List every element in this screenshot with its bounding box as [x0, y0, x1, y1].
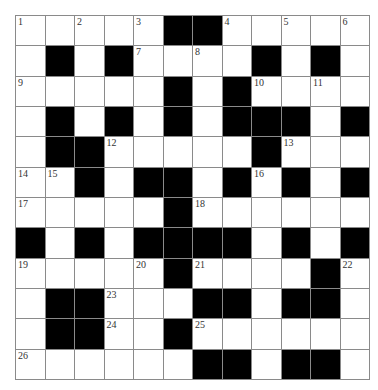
- letter-cell[interactable]: [45, 197, 75, 227]
- letter-cell[interactable]: [281, 258, 311, 288]
- letter-cell[interactable]: [15, 288, 45, 318]
- letter-cell[interactable]: [340, 288, 370, 318]
- letter-cell[interactable]: [133, 136, 163, 166]
- letter-cell[interactable]: [163, 45, 193, 75]
- letter-cell[interactable]: [74, 349, 104, 379]
- letter-cell[interactable]: 21: [192, 258, 222, 288]
- letter-cell[interactable]: [251, 197, 281, 227]
- letter-cell[interactable]: [281, 318, 311, 348]
- letter-cell[interactable]: 6: [340, 15, 370, 45]
- letter-cell[interactable]: 7: [133, 45, 163, 75]
- letter-cell[interactable]: 5: [281, 15, 311, 45]
- letter-cell[interactable]: [310, 106, 340, 136]
- letter-cell[interactable]: [133, 288, 163, 318]
- letter-cell[interactable]: [251, 288, 281, 318]
- letter-cell[interactable]: [163, 136, 193, 166]
- letter-cell[interactable]: [45, 227, 75, 257]
- letter-cell[interactable]: [222, 136, 252, 166]
- letter-cell[interactable]: [104, 227, 134, 257]
- letter-cell[interactable]: [192, 136, 222, 166]
- letter-cell[interactable]: [251, 349, 281, 379]
- letter-cell[interactable]: [310, 167, 340, 197]
- letter-cell[interactable]: 3: [133, 15, 163, 45]
- letter-cell[interactable]: [310, 318, 340, 348]
- clue-number: 23: [107, 290, 117, 300]
- letter-cell[interactable]: [340, 197, 370, 227]
- letter-cell[interactable]: 16: [251, 167, 281, 197]
- letter-cell[interactable]: [310, 15, 340, 45]
- letter-cell[interactable]: 17: [15, 197, 45, 227]
- letter-cell[interactable]: [15, 45, 45, 75]
- letter-cell[interactable]: [163, 349, 193, 379]
- letter-cell[interactable]: [340, 349, 370, 379]
- letter-cell[interactable]: [192, 106, 222, 136]
- letter-cell[interactable]: [74, 76, 104, 106]
- letter-cell[interactable]: [340, 76, 370, 106]
- letter-cell[interactable]: [192, 76, 222, 106]
- letter-cell[interactable]: 1: [15, 15, 45, 45]
- letter-cell[interactable]: [340, 45, 370, 75]
- letter-cell[interactable]: [45, 258, 75, 288]
- letter-cell[interactable]: [15, 136, 45, 166]
- black-square: [281, 106, 311, 136]
- letter-cell[interactable]: [340, 136, 370, 166]
- letter-cell[interactable]: [281, 45, 311, 75]
- letter-cell[interactable]: [74, 197, 104, 227]
- letter-cell[interactable]: 14: [15, 167, 45, 197]
- letter-cell[interactable]: 13: [281, 136, 311, 166]
- letter-cell[interactable]: [45, 15, 75, 45]
- letter-cell[interactable]: 24: [104, 318, 134, 348]
- letter-cell[interactable]: [104, 258, 134, 288]
- letter-cell[interactable]: [133, 318, 163, 348]
- letter-cell[interactable]: [15, 318, 45, 348]
- letter-cell[interactable]: [15, 106, 45, 136]
- letter-cell[interactable]: 10: [251, 76, 281, 106]
- letter-cell[interactable]: [251, 318, 281, 348]
- letter-cell[interactable]: [251, 227, 281, 257]
- letter-cell[interactable]: [133, 197, 163, 227]
- letter-cell[interactable]: 23: [104, 288, 134, 318]
- letter-cell[interactable]: [104, 197, 134, 227]
- letter-cell[interactable]: [104, 167, 134, 197]
- letter-cell[interactable]: [74, 106, 104, 136]
- letter-cell[interactable]: 11: [310, 76, 340, 106]
- letter-cell[interactable]: [222, 318, 252, 348]
- letter-cell[interactable]: [74, 45, 104, 75]
- letter-cell[interactable]: 26: [15, 349, 45, 379]
- letter-cell[interactable]: 2: [74, 15, 104, 45]
- letter-cell[interactable]: 12: [104, 136, 134, 166]
- letter-cell[interactable]: [281, 197, 311, 227]
- letter-cell[interactable]: [104, 76, 134, 106]
- letter-cell[interactable]: [310, 197, 340, 227]
- letter-cell[interactable]: [251, 258, 281, 288]
- letter-cell[interactable]: 15: [45, 167, 75, 197]
- letter-cell[interactable]: [222, 258, 252, 288]
- clue-number: 13: [284, 138, 294, 148]
- letter-cell[interactable]: [104, 349, 134, 379]
- letter-cell[interactable]: [133, 106, 163, 136]
- letter-cell[interactable]: [133, 76, 163, 106]
- letter-cell[interactable]: [340, 318, 370, 348]
- letter-cell[interactable]: 18: [192, 197, 222, 227]
- letter-cell[interactable]: [192, 167, 222, 197]
- letter-cell[interactable]: 20: [133, 258, 163, 288]
- letter-cell[interactable]: 8: [192, 45, 222, 75]
- letter-cell[interactable]: [163, 288, 193, 318]
- black-square: [192, 349, 222, 379]
- letter-cell[interactable]: [310, 136, 340, 166]
- letter-cell[interactable]: [74, 258, 104, 288]
- letter-cell[interactable]: [251, 15, 281, 45]
- letter-cell[interactable]: [45, 76, 75, 106]
- letter-cell[interactable]: [104, 15, 134, 45]
- letter-cell[interactable]: 25: [192, 318, 222, 348]
- letter-cell[interactable]: [281, 76, 311, 106]
- letter-cell[interactable]: [310, 227, 340, 257]
- letter-cell[interactable]: [222, 45, 252, 75]
- letter-cell[interactable]: 22: [340, 258, 370, 288]
- letter-cell[interactable]: [45, 349, 75, 379]
- letter-cell[interactable]: 9: [15, 76, 45, 106]
- letter-cell[interactable]: 19: [15, 258, 45, 288]
- letter-cell[interactable]: [133, 349, 163, 379]
- letter-cell[interactable]: 4: [222, 15, 252, 45]
- letter-cell[interactable]: [222, 197, 252, 227]
